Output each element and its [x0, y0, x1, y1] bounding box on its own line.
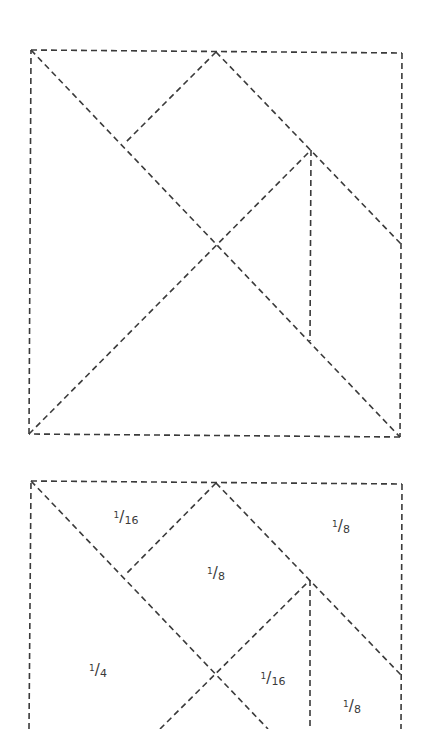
fraction-label: 1/16 [261, 669, 286, 688]
tangram-canvas [0, 0, 430, 729]
fraction-label: 1/16 [114, 508, 139, 527]
dashed-edge [216, 483, 401, 675]
dashed-edge [31, 481, 268, 729]
dashed-edge [125, 483, 216, 575]
fraction-label: 1/8 [207, 564, 225, 583]
dashed-edge [31, 50, 400, 437]
dashed-edge [125, 52, 216, 143]
fraction-label: 1/8 [332, 517, 350, 536]
dashed-edge [310, 150, 311, 341]
dashed-edge [216, 52, 401, 244]
tangram-outline [29, 50, 402, 437]
dashed-edge [160, 580, 310, 729]
dashed-edge [29, 481, 31, 729]
dashed-edge [401, 484, 402, 729]
fraction-label: 1/4 [89, 661, 107, 680]
dashed-edge [29, 50, 31, 434]
dashed-edge [400, 53, 402, 437]
dashed-edge [29, 150, 311, 434]
fraction-label: 1/8 [343, 697, 361, 716]
dashed-edge [29, 434, 400, 437]
